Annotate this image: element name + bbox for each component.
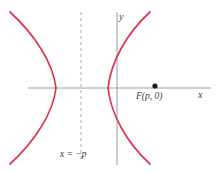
- parabola-figure: y x F(p, 0) x = −p: [0, 0, 219, 173]
- x-axis-label: x: [198, 90, 202, 100]
- focus-label: F(p, 0): [136, 92, 162, 102]
- y-axis-label: y: [119, 12, 123, 22]
- directrix-label: x = −p: [60, 150, 87, 160]
- figure-canvas: [0, 0, 219, 173]
- focus-point: [152, 83, 157, 88]
